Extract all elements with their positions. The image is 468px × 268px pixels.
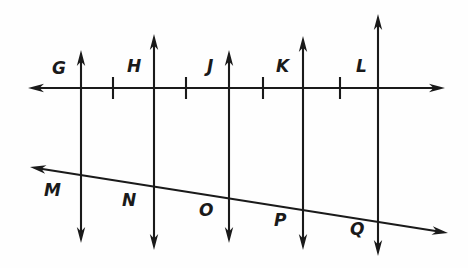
point-label-k: K — [276, 58, 289, 75]
point-label-m: M — [44, 182, 61, 199]
point-label-q: Q — [350, 221, 364, 238]
figure-canvas — [0, 0, 468, 268]
geometry-figure: GHJKLMNOPQ — [0, 0, 468, 268]
point-label-h: H — [127, 58, 141, 75]
point-label-j: J — [207, 58, 213, 75]
point-label-o: O — [199, 202, 213, 219]
diagram-lines — [28, 14, 448, 256]
point-label-l: L — [356, 58, 367, 75]
point-label-g: G — [52, 60, 66, 77]
point-label-p: P — [274, 212, 286, 229]
point-label-n: N — [122, 192, 136, 209]
